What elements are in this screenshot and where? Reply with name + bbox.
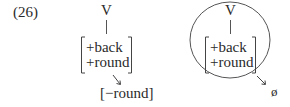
arrow-right — [257, 76, 265, 84]
left-bracket-open — [82, 37, 86, 73]
right-result-null: ø — [271, 84, 278, 100]
left-feature-back: +back — [86, 40, 123, 54]
right-feature-round: +round — [210, 55, 253, 69]
arrow-left — [113, 75, 120, 84]
right-feature-back: +back — [210, 40, 247, 54]
right-node-v: V — [225, 2, 236, 19]
left-feature-round: +round — [86, 55, 129, 69]
right-bracket-open — [206, 37, 210, 73]
left-result: [−round] — [100, 85, 153, 102]
left-node-v: V — [101, 2, 112, 19]
